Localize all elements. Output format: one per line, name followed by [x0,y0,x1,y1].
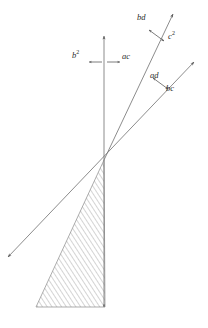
label-bd: bd [137,13,146,22]
bd-cross-double-arrow [149,30,164,41]
ray-bd [104,14,173,160]
label-c-squared-exponent: 2 [172,30,175,36]
label-c-squared: c2 [168,32,175,41]
label-ad: ad [150,71,159,80]
figure-canvas [0,0,208,328]
label-ac: ac [122,52,130,61]
geometry-figure: bd c2 ad bc b2 ac [0,0,208,328]
label-bc: bc [166,84,174,93]
label-b-squared: b2 [72,51,79,60]
label-b-squared-exponent: 2 [76,49,79,55]
